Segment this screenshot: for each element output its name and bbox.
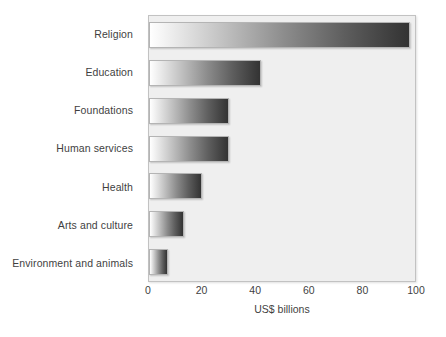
x-tick-label-20: 20	[196, 284, 208, 297]
x-axis-title: US$ billions	[148, 303, 416, 315]
bar-foundations	[149, 98, 229, 124]
value-axis: 020406080100	[148, 284, 416, 300]
bar-education	[149, 60, 261, 86]
category-label-health: Health	[102, 181, 133, 193]
bar-slot	[149, 130, 415, 168]
bar-health	[149, 173, 202, 199]
bars-layer	[149, 16, 415, 281]
bar-religion	[149, 22, 410, 48]
category-axis-slot: Environment and animals	[0, 244, 141, 282]
x-tick-label-100: 100	[407, 284, 425, 297]
horizontal-bar-chart: Religion Education Foundations Human ser…	[0, 0, 446, 337]
bar-slot	[149, 92, 415, 130]
category-axis-slot: Foundations	[0, 91, 141, 129]
category-label-education: Education	[85, 66, 133, 78]
category-axis: Religion Education Foundations Human ser…	[0, 15, 141, 282]
bar-human-services	[149, 136, 229, 162]
category-label-environment-and-animals: Environment and animals	[12, 257, 133, 269]
category-axis-slot: Human services	[0, 129, 141, 167]
x-tick-label-60: 60	[303, 284, 315, 297]
category-label-foundations: Foundations	[74, 104, 133, 116]
bar-slot	[149, 16, 415, 54]
bar-slot	[149, 167, 415, 205]
category-axis-slot: Religion	[0, 15, 141, 53]
bar-environment-and-animals	[149, 249, 168, 275]
category-label-religion: Religion	[94, 28, 133, 40]
category-axis-slot: Education	[0, 53, 141, 91]
category-label-human-services: Human services	[56, 142, 133, 154]
category-label-arts-and-culture: Arts and culture	[58, 219, 133, 231]
bar-slot	[149, 54, 415, 92]
category-axis-slot: Health	[0, 168, 141, 206]
category-axis-slot: Arts and culture	[0, 206, 141, 244]
bar-slot	[149, 205, 415, 243]
x-tick-label-0: 0	[145, 284, 151, 297]
bar-slot	[149, 243, 415, 281]
plot-area	[148, 15, 416, 282]
x-tick-label-80: 80	[357, 284, 369, 297]
x-tick-label-40: 40	[249, 284, 261, 297]
bar-arts-and-culture	[149, 211, 184, 237]
